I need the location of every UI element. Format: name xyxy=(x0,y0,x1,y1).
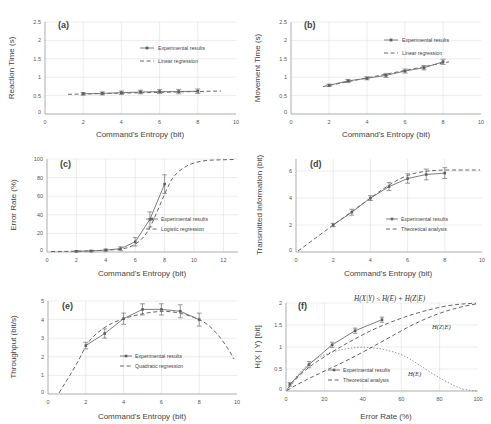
svg-text:1: 1 xyxy=(284,74,287,80)
legend-item-experimental: Experimental results xyxy=(158,45,205,51)
svg-text:6: 6 xyxy=(158,119,161,125)
panel-c-label: (c) xyxy=(60,159,71,169)
panel-f-yticks: 2 1.5 1 0.5 0 xyxy=(274,300,282,392)
panel-f-markers xyxy=(289,318,384,385)
panel-e: 5 4 3 2 1 0 0 2 4 6 8 10 xyxy=(0,283,246,424)
svg-text:40: 40 xyxy=(37,212,43,218)
panel-a-xticks: 0 2 4 6 8 10 xyxy=(43,119,239,125)
svg-text:60: 60 xyxy=(37,193,43,199)
panel-b-ylabel: Movement Time (s) xyxy=(253,33,262,102)
panel-f-errorbars xyxy=(288,317,385,386)
panel-c-ylabel: Error Rate (%) xyxy=(9,179,18,231)
panel-d-grid xyxy=(296,159,482,252)
panel-c-xticks: 0 2 4 6 8 10 12 xyxy=(45,257,226,263)
panel-c-xlabel: Command's Entropy (bit) xyxy=(98,269,187,278)
svg-text:10: 10 xyxy=(191,257,197,263)
svg-text:0: 0 xyxy=(41,389,44,395)
svg-text:8: 8 xyxy=(163,257,166,263)
svg-text:80: 80 xyxy=(437,396,443,402)
svg-text:2: 2 xyxy=(38,37,41,43)
svg-text:0: 0 xyxy=(40,247,43,253)
panel-b-yticks: 2.5 2 1.5 1 0.5 0 xyxy=(279,19,287,115)
svg-text:0.5: 0.5 xyxy=(274,366,282,372)
panel-a-markers xyxy=(82,90,199,95)
panel-b-plot: 2.5 2 1.5 1 0.5 0 0 2 4 6 8 10 xyxy=(246,4,491,140)
panel-f-annotation-inequality: H(X|Y) ≤ H(E) + H(Z|E) xyxy=(353,295,426,303)
svg-text:2: 2 xyxy=(75,257,78,263)
legend-item-logistic: Logistic regression xyxy=(161,226,204,232)
panel-f-legend: Experimental results Theoretical analysi… xyxy=(328,367,390,383)
svg-text:4: 4 xyxy=(369,257,372,263)
panel-e-ylabel: Throughput (bit/s) xyxy=(9,315,18,378)
panel-a-grid xyxy=(45,22,236,114)
panel-a-yticks: 2.5 2 1.5 1 0.5 0 xyxy=(33,19,41,115)
svg-text:2.5: 2.5 xyxy=(279,19,287,25)
panel-e-xticks: 0 2 4 6 8 10 xyxy=(46,399,240,405)
panel-d-theoretical-line xyxy=(298,170,480,251)
legend-item-linear: Linear regression xyxy=(402,50,442,56)
panel-a-plot: 2.5 2 1.5 1 0.5 0 0 2 4 6 8 10 xyxy=(0,4,246,140)
legend-item-experimental: Experimental results xyxy=(135,353,182,359)
svg-text:1.5: 1.5 xyxy=(279,56,287,62)
panel-e-legend: Experimental results Quadratic regressio… xyxy=(120,353,183,369)
legend-item-quadratic: Quadratic regression xyxy=(135,363,183,369)
panel-f-label: (f) xyxy=(298,301,307,311)
panel-b: 2.5 2 1.5 1 0.5 0 0 2 4 6 8 10 xyxy=(246,4,491,140)
panel-b-legend: Experimental results Linear regression xyxy=(384,37,449,56)
svg-text:0: 0 xyxy=(43,119,46,125)
panel-d-xticks: 0 2 4 6 8 10 xyxy=(294,257,485,263)
svg-text:0: 0 xyxy=(284,396,287,402)
svg-text:3: 3 xyxy=(41,335,44,341)
svg-text:80: 80 xyxy=(37,175,43,181)
svg-text:8: 8 xyxy=(443,257,446,263)
panel-c-legend: Experimental results Logistic regression xyxy=(146,216,208,232)
svg-text:0: 0 xyxy=(279,386,282,392)
panel-d-ylabel: Transmitted Information (bit) xyxy=(255,155,264,256)
svg-text:100: 100 xyxy=(473,396,482,402)
svg-text:8: 8 xyxy=(196,119,199,125)
panel-f-plot: 2 1.5 1 0.5 0 0 20 40 60 80 100 xyxy=(246,283,491,424)
svg-text:4: 4 xyxy=(289,195,292,201)
svg-text:2: 2 xyxy=(84,399,87,405)
svg-text:0.5: 0.5 xyxy=(279,93,287,99)
svg-text:6: 6 xyxy=(403,119,406,125)
svg-text:6: 6 xyxy=(134,257,137,263)
svg-text:10: 10 xyxy=(234,399,240,405)
panel-b-xticks: 0 2 4 6 8 10 xyxy=(289,119,484,125)
panel-a: 2.5 2 1.5 1 0.5 0 0 2 4 6 8 10 xyxy=(0,4,246,140)
legend-item-experimental: Experimental results xyxy=(343,367,390,373)
panel-b-xlabel: Command's Entropy (bit) xyxy=(342,130,431,139)
svg-text:100: 100 xyxy=(34,156,43,162)
panel-a-label: (a) xyxy=(58,20,69,30)
panel-d-plot: 6 4 2 0 0 2 4 6 8 10 xyxy=(246,143,491,283)
panel-a-xlabel: Command's Entropy (bit) xyxy=(96,130,185,139)
svg-text:2: 2 xyxy=(279,300,282,306)
panel-f-xticks: 0 20 40 60 80 100 xyxy=(284,396,482,402)
legend-item-experimental: Experimental results xyxy=(402,37,449,43)
legend-item-theoretical: Theoretical analysis xyxy=(401,226,447,232)
svg-text:2: 2 xyxy=(41,354,44,360)
panel-a-ylabel: Reaction Time (s) xyxy=(7,36,16,99)
svg-text:0: 0 xyxy=(45,257,48,263)
svg-text:2: 2 xyxy=(327,119,330,125)
svg-text:4: 4 xyxy=(120,119,123,125)
svg-text:12: 12 xyxy=(220,257,226,263)
svg-text:20: 20 xyxy=(37,230,43,236)
panel-b-grid xyxy=(291,22,481,114)
panel-e-label: (e) xyxy=(62,301,73,311)
svg-text:2: 2 xyxy=(82,119,85,125)
svg-text:6: 6 xyxy=(406,257,409,263)
svg-text:10: 10 xyxy=(479,257,485,263)
figure-container: 2.5 2 1.5 1 0.5 0 0 2 4 6 8 10 xyxy=(0,0,491,424)
svg-text:1.5: 1.5 xyxy=(274,322,282,328)
svg-text:4: 4 xyxy=(122,399,125,405)
panel-e-yticks: 5 4 3 2 1 0 xyxy=(41,298,44,395)
panel-d-label: (d) xyxy=(310,159,322,169)
svg-text:0: 0 xyxy=(284,109,287,115)
svg-text:2: 2 xyxy=(284,37,287,43)
panel-c-yticks: 100 80 60 40 20 0 xyxy=(34,156,43,253)
svg-text:60: 60 xyxy=(398,396,404,402)
svg-text:1: 1 xyxy=(279,344,282,350)
panel-c-plot: 100 80 60 40 20 0 0 2 4 6 8 10 12 xyxy=(0,143,246,283)
panel-d-xlabel: Command's Entropy (bit) xyxy=(344,269,433,278)
